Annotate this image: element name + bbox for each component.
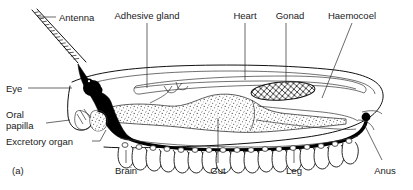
excretory-organ-structure [90,110,108,131]
label-gonad: Gonad [276,10,305,21]
leader-anus [364,124,382,160]
leader-lines [28,17,382,163]
eye-structure [85,78,92,85]
leader-excretory-organ [92,130,106,141]
gut-structure [97,94,358,132]
dorsal-body-wall-line [96,71,375,94]
gonad-structure [250,80,315,102]
label-antenna: Antenna [59,12,95,23]
anus-structure [358,111,382,130]
label-eye: Eye [6,83,22,94]
label-leg: Leg [286,165,302,176]
label-heart: Heart [233,10,257,21]
label-adhesive-gland: Adhesive gland [115,10,180,21]
label-oral-papilla-line2: papilla [6,120,34,131]
label-oral-papilla-line1: Oral [6,109,24,120]
label-gut: Gut [210,165,226,176]
label-anus: Anus [374,165,396,176]
anatomy-figure: Antenna Adhesive gland Heart Gonad Haemo… [0,0,413,190]
label-brain: Brain [115,165,137,176]
panel-label: (a) [12,165,24,176]
label-excretory-organ: Excretory organ [6,136,73,147]
anatomy-diagram-svg: Antenna Adhesive gland Heart Gonad Haemo… [0,0,413,190]
label-haemocoel: Haemocoel [328,10,376,21]
leader-oral-papilla [46,120,70,123]
